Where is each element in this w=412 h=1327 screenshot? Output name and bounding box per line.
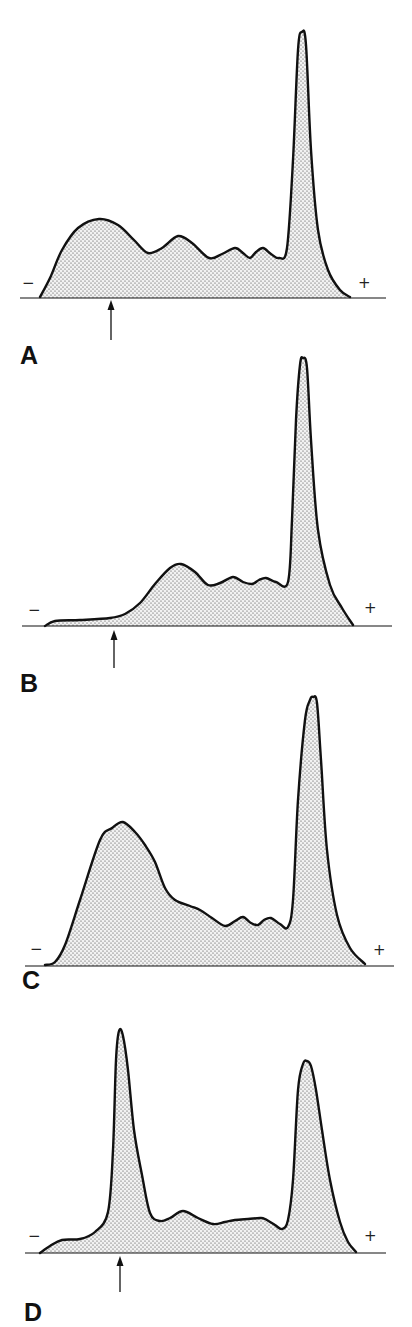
- tracings-canvas: [0, 0, 412, 1327]
- panel-label-c: C: [22, 968, 40, 993]
- electrophoresis-figure: A − + B − + C − + D − +: [0, 0, 412, 1327]
- anode-plus-sign-d: +: [364, 1229, 377, 1244]
- arrow-up-icon-b: [111, 630, 118, 640]
- panel-a-tracing: [20, 31, 386, 340]
- stippled-area-b: [45, 357, 353, 626]
- anode-plus-sign-a: +: [358, 276, 371, 291]
- anode-plus-sign-c: +: [373, 943, 386, 958]
- panel-label-d: D: [24, 1300, 42, 1325]
- cathode-minus-sign-a: −: [22, 276, 35, 291]
- arrow-up-icon-a: [108, 300, 115, 310]
- stippled-area-a: [40, 31, 350, 298]
- arrow-up-icon-d: [117, 1256, 124, 1266]
- stippled-area-c: [45, 696, 365, 966]
- cathode-minus-sign-b: −: [28, 603, 41, 618]
- cathode-minus-sign-c: −: [30, 942, 43, 957]
- panel-c-tracing: [25, 696, 394, 966]
- panel-label-b: B: [20, 671, 38, 696]
- panel-d-tracing: [25, 1029, 386, 1292]
- cathode-minus-sign-d: −: [28, 1229, 41, 1244]
- anode-plus-sign-b: +: [364, 601, 377, 616]
- panel-b-tracing: [22, 357, 392, 668]
- panel-label-a: A: [20, 343, 38, 368]
